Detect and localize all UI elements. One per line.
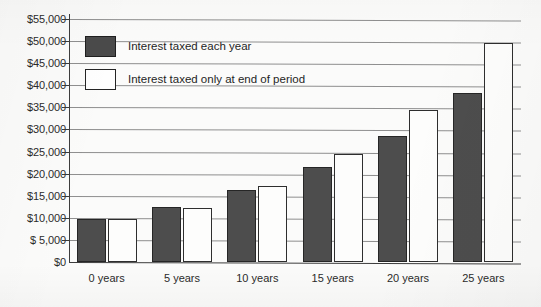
y-axis-tick-label: $0 (2, 256, 66, 268)
x-axis-tick-label: 20 years (387, 272, 429, 284)
y-axis-tick-label: $10,000 (2, 212, 66, 224)
y-axis-tick-label: $30,000 (2, 123, 66, 135)
y-axis-tick-label: $45,000 (2, 57, 66, 69)
bar-taxed-each-year (303, 167, 332, 262)
y-axis-tick-label: $ 5,000 (2, 234, 66, 246)
bar-taxed-each-year (378, 136, 407, 262)
gridline (69, 19, 521, 21)
legend-swatch-taxed-end-of-period (85, 69, 116, 90)
bar-taxed-each-year (453, 93, 482, 262)
bar-taxed-each-year (152, 207, 181, 262)
y-axis-tick-label: $55,000 (2, 13, 66, 25)
y-axis-tick-label: $20,000 (2, 168, 66, 180)
chart-legend: Interest taxed each year Interest taxed … (85, 33, 305, 99)
y-axis-line (69, 14, 70, 263)
x-axis-tick-label: 15 years (312, 272, 354, 284)
bar-taxed-end-of-period (108, 219, 137, 262)
x-axis-tick-label: 0 years (89, 272, 125, 284)
bar-taxed-each-year (77, 219, 106, 262)
y-axis-tick-label: $50,000 (2, 35, 66, 47)
bar-taxed-end-of-period (334, 154, 363, 262)
bar-taxed-end-of-period (484, 43, 513, 262)
legend-label-taxed-end-of-period: Interest taxed only at end of period (128, 73, 305, 85)
bar-chart: $0$ 5,000$10,000$15,000$20,000$25,000$30… (0, 0, 541, 307)
legend-item: Interest taxed only at end of period (85, 66, 305, 92)
y-axis-tick-label: $35,000 (2, 101, 66, 113)
x-axis-tick-label: 25 years (462, 272, 504, 284)
x-axis-tick-label: 5 years (164, 272, 200, 284)
y-axis-tick-label: $15,000 (2, 190, 66, 202)
legend-label-taxed-each-year: Interest taxed each year (128, 40, 251, 52)
bar-taxed-each-year (227, 190, 256, 262)
bar-taxed-end-of-period (258, 186, 287, 262)
bar-taxed-end-of-period (409, 110, 438, 262)
y-axis-tick-label: $40,000 (2, 79, 66, 91)
legend-item: Interest taxed each year (85, 33, 305, 59)
x-axis-tick-label: 10 years (236, 272, 278, 284)
legend-swatch-taxed-each-year (85, 36, 116, 57)
y-axis-tick-label: $25,000 (2, 146, 66, 158)
bar-taxed-end-of-period (183, 208, 212, 262)
x-axis-line (69, 262, 521, 265)
